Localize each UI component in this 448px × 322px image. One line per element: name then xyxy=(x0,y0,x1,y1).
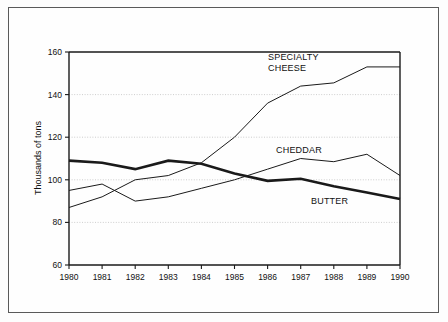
line-chart: 6080100120140160 19801981198219831984198… xyxy=(0,0,448,322)
x-tick-label-1989: 1989 xyxy=(357,272,376,282)
series-label-specialty-cheese-line1: SPECIALTY xyxy=(268,52,319,62)
series-label-specialty-cheese-line2: CHEESE xyxy=(268,63,306,73)
series-label-cheddar: CHEDDAR xyxy=(276,145,322,155)
x-tick-label-1983: 1983 xyxy=(159,272,178,282)
gridlines xyxy=(69,95,400,223)
y-tick-label-120: 120 xyxy=(48,132,62,142)
x-tick-label-1980: 1980 xyxy=(60,272,79,282)
series-label-butter: BUTTER xyxy=(311,196,349,206)
x-tick-label-1990: 1990 xyxy=(391,272,410,282)
x-tick-label-1984: 1984 xyxy=(192,272,211,282)
x-tick-label-1981: 1981 xyxy=(93,272,112,282)
y-tick-label-80: 80 xyxy=(53,217,63,227)
y-tick-label-100: 100 xyxy=(48,175,62,185)
x-tick-label-1986: 1986 xyxy=(258,272,277,282)
x-tick-label-1988: 1988 xyxy=(324,272,343,282)
y-axis-tick-labels: 6080100120140160 xyxy=(48,47,62,270)
x-tick-label-1987: 1987 xyxy=(291,272,310,282)
plot-frame xyxy=(69,52,400,265)
y-tick-label-60: 60 xyxy=(53,260,63,270)
x-axis-tick-labels: 1980198119821983198419851986198719881989… xyxy=(60,272,410,282)
y-tick-label-140: 140 xyxy=(48,90,62,100)
x-tick-label-1985: 1985 xyxy=(225,272,244,282)
y-axis-title: Thousands of tons xyxy=(33,120,43,195)
y-tick-label-160: 160 xyxy=(48,47,62,57)
chart-figure: 6080100120140160 19801981198219831984198… xyxy=(0,0,448,322)
x-tick-label-1982: 1982 xyxy=(126,272,145,282)
series-line-cheddar xyxy=(69,154,400,201)
